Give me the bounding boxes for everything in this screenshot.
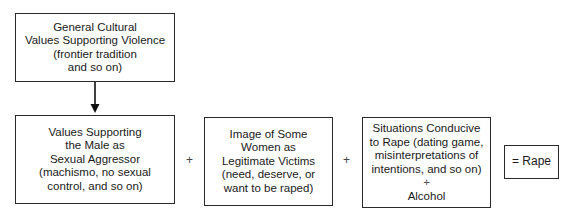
box-line: (machismo, no sexual: [39, 166, 151, 180]
result-label: = Rape: [512, 155, 551, 169]
plus-operator: +: [186, 153, 193, 167]
box-line: Legitimate Victims: [222, 155, 315, 169]
box-line: Sexual Aggressor: [50, 153, 140, 167]
plus-operator: +: [343, 153, 350, 167]
box-line: Women as: [241, 141, 296, 155]
male-sexual-aggressor-box: Values Supporting the Male as Sexual Agg…: [15, 115, 175, 204]
box-line: Image of Some: [230, 128, 308, 142]
box-line: and so on): [68, 61, 122, 75]
box-line: control, and so on): [47, 180, 142, 194]
box-line: +: [423, 176, 430, 190]
general-cultural-values-box: General Cultural Values Supporting Viole…: [15, 13, 175, 82]
box-line: want to be raped): [224, 182, 314, 196]
box-line: General Cultural: [53, 21, 137, 35]
box-line: (need, deserve, or: [222, 168, 315, 182]
legitimate-victims-box: Image of Some Women as Legitimate Victim…: [204, 117, 333, 206]
situations-conducive-box: Situations Conducive to Rape (dating gam…: [362, 117, 491, 208]
box-line: Alcohol: [408, 190, 446, 204]
box-line: Values Supporting: [48, 126, 141, 140]
box-line: the Male as: [65, 139, 124, 153]
box-line: misinterpretations of: [375, 149, 479, 163]
box-line: to Rape (dating game,: [370, 136, 484, 150]
box-line: Values Supporting Violence: [25, 34, 165, 48]
box-line: intentions, and so on): [372, 163, 482, 177]
result-rape-box: = Rape: [504, 145, 559, 179]
box-line: (frontier tradition: [53, 48, 137, 62]
box-line: Situations Conducive: [372, 122, 480, 136]
